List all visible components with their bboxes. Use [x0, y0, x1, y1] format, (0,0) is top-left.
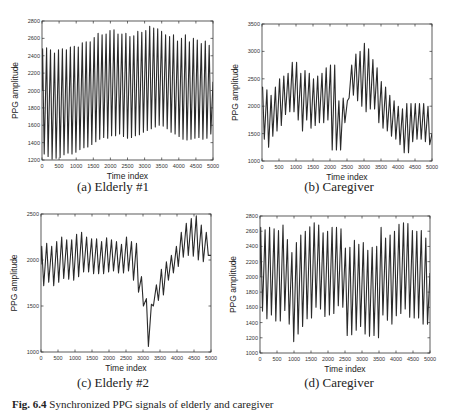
y-tick-label: 1400 [28, 140, 40, 146]
x-tick-label: 2500 [120, 355, 132, 361]
x-tick-label: 2000 [324, 164, 336, 170]
x-tick-label: 5000 [424, 356, 436, 362]
x-tick-label: 4500 [409, 164, 421, 170]
x-tick-label: 3000 [138, 163, 150, 169]
y-tick-label: 2000 [27, 257, 39, 263]
chart-c: 0500100015002000250030003500400045005000… [0, 200, 226, 380]
y-tick-label: 3500 [248, 21, 260, 27]
x-tick-label: 2000 [104, 163, 116, 169]
x-tick-label: 1000 [290, 164, 302, 170]
subplot-caption-d: (d) Caregiver [226, 375, 452, 391]
y-tick-label: 2000 [246, 274, 258, 280]
y-tick-label: 3000 [248, 48, 260, 54]
x-tick-label: 500 [274, 164, 283, 170]
y-tick-label: 2600 [28, 35, 40, 41]
x-tick-label: 3000 [137, 355, 149, 361]
x-tick-label: 500 [272, 356, 281, 362]
x-tick-label: 0 [260, 164, 263, 170]
x-tick-label: 500 [55, 163, 64, 169]
x-axis-label: Time index [324, 364, 366, 374]
x-axis-label: Time index [105, 363, 147, 373]
subplot-caption-c: (c) Elderly #2 [0, 375, 226, 391]
y-tick-label: 1600 [28, 122, 40, 128]
x-tick-label: 5000 [205, 355, 217, 361]
x-tick-label: 3500 [154, 355, 166, 361]
x-tick-label: 1000 [69, 355, 81, 361]
ppg-signal-line [42, 26, 213, 159]
y-tick-label: 1500 [248, 131, 260, 137]
figure-caption-label: Fig. 6.4 [12, 398, 47, 410]
y-tick-label: 1400 [246, 320, 258, 326]
x-tick-label: 500 [53, 355, 62, 361]
x-tick-label: 3500 [375, 164, 387, 170]
y-tick-label: 1200 [246, 335, 258, 341]
x-tick-label: 4000 [171, 355, 183, 361]
subplot-d: 0500100015002000250030003500400045005000… [226, 200, 452, 390]
x-tick-label: 1500 [87, 163, 99, 169]
y-tick-label: 2400 [246, 243, 258, 249]
subplot-c: 0500100015002000250030003500400045005000… [0, 200, 226, 390]
y-tick-label: 2500 [27, 211, 39, 217]
chart-d: 0500100015002000250030003500400045005000… [226, 200, 452, 380]
chart-a: 0500100015002000250030003500400045005000… [0, 0, 226, 182]
y-tick-label: 1000 [246, 350, 258, 356]
ppg-signal-line [262, 43, 432, 153]
figure-caption: Fig. 6.4 Synchronized PPG signals of eld… [12, 398, 274, 410]
x-tick-label: 1500 [307, 164, 319, 170]
x-tick-label: 2000 [322, 356, 334, 362]
x-tick-label: 4000 [173, 163, 185, 169]
y-axis-label: PPG amplitude [228, 256, 238, 313]
x-tick-label: 2500 [341, 164, 353, 170]
x-tick-label: 4500 [188, 355, 200, 361]
y-tick-label: 2800 [28, 18, 40, 24]
subplot-caption-a: (a) Elderly #1 [0, 179, 226, 195]
x-tick-label: 3000 [356, 356, 368, 362]
x-tick-label: 2500 [121, 163, 133, 169]
y-tick-label: 2200 [246, 259, 258, 265]
y-tick-label: 1800 [246, 289, 258, 295]
y-tick-label: 1000 [248, 158, 260, 164]
y-tick-label: 2800 [246, 213, 258, 219]
y-axis-label: PPG amplitude [10, 62, 20, 119]
y-tick-label: 1500 [27, 303, 39, 309]
y-tick-label: 2000 [248, 103, 260, 109]
x-tick-label: 4000 [392, 164, 404, 170]
x-tick-label: 1500 [86, 355, 98, 361]
x-tick-label: 0 [40, 163, 43, 169]
x-tick-label: 5000 [426, 164, 438, 170]
x-tick-label: 0 [39, 355, 42, 361]
ppg-signal-line [41, 216, 211, 347]
subplot-a: 0500100015002000250030003500400045005000… [0, 0, 226, 200]
figure-caption-text: Synchronized PPG signals of elderly and … [49, 398, 273, 410]
plot-frame [262, 24, 432, 161]
y-tick-label: 1800 [28, 105, 40, 111]
y-tick-label: 2400 [28, 53, 40, 59]
subplot-b: 0500100015002000250030003500400045005000… [226, 0, 452, 200]
x-tick-label: 3000 [358, 164, 370, 170]
x-tick-label: 1000 [70, 163, 82, 169]
y-axis-label: PPG amplitude [9, 254, 19, 311]
y-tick-label: 2200 [28, 70, 40, 76]
y-tick-label: 2000 [28, 88, 40, 94]
y-tick-label: 2600 [246, 228, 258, 234]
x-tick-label: 2000 [103, 355, 115, 361]
x-tick-label: 2500 [339, 356, 351, 362]
x-tick-label: 4500 [190, 163, 202, 169]
x-tick-label: 1000 [288, 356, 300, 362]
x-tick-label: 1500 [305, 356, 317, 362]
x-tick-label: 4500 [407, 356, 419, 362]
x-tick-label: 5000 [207, 163, 219, 169]
y-tick-label: 1600 [246, 304, 258, 310]
chart-b: 0500100015002000250030003500400045005000… [226, 0, 452, 182]
y-axis-label: PPG amplitude [230, 64, 240, 121]
subplot-caption-b: (b) Caregiver [226, 179, 452, 195]
ppg-signal-line [260, 223, 430, 342]
y-tick-label: 1000 [27, 349, 39, 355]
x-tick-label: 3500 [373, 356, 385, 362]
y-tick-label: 1200 [28, 157, 40, 163]
x-tick-label: 0 [258, 356, 261, 362]
x-tick-label: 4000 [390, 356, 402, 362]
y-tick-label: 2500 [248, 76, 260, 82]
x-tick-label: 3500 [156, 163, 168, 169]
